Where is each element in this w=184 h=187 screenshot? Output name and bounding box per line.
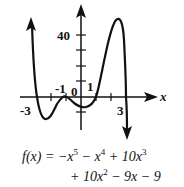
formula-line-1: f(x) = −x5 − x4 + 10x3 (22, 148, 146, 164)
tick-label-neg3: -3 (20, 104, 31, 117)
tick-label-1: 1 (87, 80, 94, 93)
tick-label-neg1: -1 (55, 82, 66, 95)
tick-label-0: 0 (71, 85, 78, 98)
tick-label-40: 40 (57, 29, 70, 42)
formula-line-2: + 10x2 − 9x − 9 (70, 168, 161, 184)
formula-term: + 10x (70, 169, 103, 184)
formula-term: + 10x (105, 149, 142, 164)
tick-label-3: 3 (117, 104, 124, 117)
formula-term: − x (78, 149, 101, 164)
formula-exp: 3 (142, 147, 147, 157)
x-axis-label: x (160, 90, 167, 103)
curve-arrow-up-icon (26, 17, 36, 31)
formula-term: f(x) = −x (22, 149, 74, 164)
formula-term: − 9x − 9 (108, 169, 161, 184)
